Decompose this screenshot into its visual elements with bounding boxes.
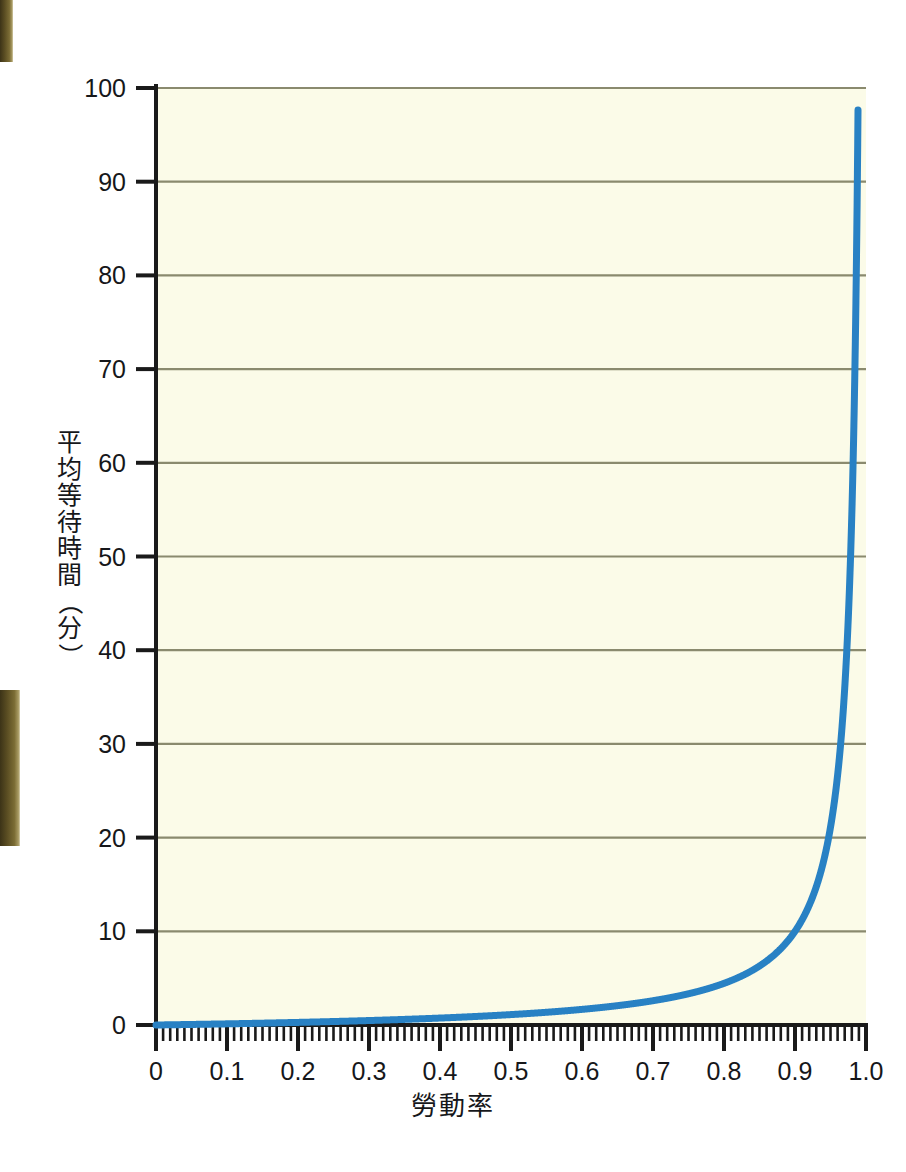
y-tick-label: 50 [98, 544, 126, 569]
y-axis-title-char: （ [56, 585, 83, 619]
y-tick-label: 20 [98, 825, 126, 850]
x-tick-label: 0.1 [210, 1059, 245, 1084]
chart-figure: 0102030405060708090100 00.10.20.30.40.50… [0, 0, 906, 1172]
x-tick-label: 0 [149, 1059, 163, 1084]
y-tick-label: 10 [98, 919, 126, 944]
y-axis-major-ticks [136, 88, 156, 1025]
y-tick-label: 70 [98, 357, 126, 382]
y-tick-label: 60 [98, 450, 126, 475]
y-tick-label: 100 [84, 76, 126, 101]
y-tick-label: 40 [98, 638, 126, 663]
x-tick-label: 0.5 [494, 1059, 529, 1084]
y-tick-label: 0 [112, 1013, 126, 1038]
y-tick-label: 90 [98, 169, 126, 194]
x-tick-label: 0.2 [281, 1059, 316, 1084]
y-tick-label: 30 [98, 731, 126, 756]
x-tick-label: 0.8 [707, 1059, 742, 1084]
y-axis-title-char: 均 [52, 457, 86, 484]
x-tick-label: 0.9 [778, 1059, 813, 1084]
x-tick-label: 0.3 [352, 1059, 387, 1084]
y-axis-title: 平均等待時間（分） [52, 430, 86, 669]
chart-canvas [0, 0, 906, 1172]
x-tick-label: 1.0 [849, 1059, 884, 1084]
x-tick-label: 0.7 [636, 1059, 671, 1084]
y-axis-title-char: 平 [52, 430, 86, 457]
y-axis-title-char: 等 [52, 483, 86, 510]
y-axis-title-char: 待 [52, 510, 86, 537]
y-axis-title-char: ） [56, 638, 83, 672]
y-axis-title-char: 時 [52, 536, 86, 563]
y-tick-label: 80 [98, 263, 126, 288]
x-axis-title: 勞動率 [0, 1085, 906, 1122]
x-tick-label: 0.4 [423, 1059, 458, 1084]
x-tick-label: 0.6 [565, 1059, 600, 1084]
